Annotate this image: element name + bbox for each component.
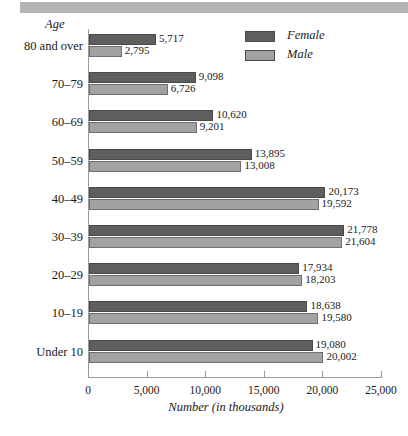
bar-female [89,340,313,351]
bar-group: 10–1918,63819,580 [0,299,408,329]
x-axis-tick [322,371,323,378]
legend-swatch-male [245,50,275,61]
bar-female [89,110,213,121]
x-axis-tick [147,371,148,378]
bar-value-label: 13,008 [241,159,274,171]
x-axis-title-text: Number (in thousands) [168,400,283,414]
bar-value-label: 10,620 [213,108,246,120]
bar-group: 50–5913,89513,008 [0,147,408,177]
bar-group: 40–4920,17319,592 [0,185,408,215]
chart-legend: Female Male [245,28,385,66]
bar-male [89,84,168,95]
legend-item-female: Female [245,28,385,47]
bar-female [89,301,307,312]
legend-label-male: Male [287,47,313,62]
bar-female [89,149,252,160]
category-label: 60–69 [52,115,83,130]
bar-male [89,237,342,248]
x-axis-tick-label: 20,000 [292,384,352,396]
category-label: 80 and over [24,39,83,54]
x-axis-tick-label: 10,000 [175,384,235,396]
category-label: 10–19 [52,306,83,321]
x-axis-line [88,377,382,378]
bar-value-label: 21,778 [344,223,377,235]
bar-male [89,199,319,210]
bar-male [89,46,122,57]
bar-male [89,352,323,363]
bar-group: 70–799,0986,726 [0,70,408,100]
x-axis-tick [205,371,206,378]
bar-female [89,187,325,198]
bar-value-label: 13,895 [252,147,285,159]
bar-value-label: 19,592 [319,197,352,209]
bar-male [89,161,241,172]
bar-male [89,122,197,133]
y-axis-title: Age [45,17,64,32]
bar-group: 20–2917,93418,203 [0,261,408,291]
bar-value-label: 20,173 [325,185,358,197]
x-axis-title: Number (in thousands) [0,400,408,415]
age-population-bar-chart: Age 80 and over5,7172,79570–799,0986,726… [0,0,408,436]
bar-value-label: 19,080 [313,338,346,350]
bar-group: 60–6910,6209,201 [0,108,408,138]
x-axis-tick-label: 25,000 [351,384,408,396]
bar-value-label: 21,604 [342,235,375,247]
bar-value-label: 9,201 [197,120,225,132]
x-axis-tick [88,371,89,378]
bar-group: Under 1019,08020,002 [0,338,408,368]
legend-swatch-female [245,31,275,42]
bar-male [89,313,318,324]
bar-value-label: 18,638 [307,299,340,311]
category-label: 20–29 [52,268,83,283]
bar-value-label: 19,580 [318,311,351,323]
bar-female [89,263,299,274]
x-axis-tick-label: 15,000 [234,384,294,396]
bar-group: 30–3921,77821,604 [0,223,408,253]
bar-value-label: 9,098 [196,70,224,82]
x-axis-tick [264,371,265,378]
bar-value-label: 18,203 [302,273,335,285]
category-label: 40–49 [52,192,83,207]
bar-value-label: 2,795 [122,44,150,56]
category-label: 30–39 [52,230,83,245]
category-label: Under 10 [36,345,83,360]
legend-label-female: Female [287,28,324,43]
x-axis-tick-label: 5,000 [117,384,177,396]
bar-value-label: 5,717 [156,32,184,44]
bar-value-label: 17,934 [299,261,332,273]
bar-male [89,275,302,286]
category-label: 70–79 [52,77,83,92]
category-label: 50–59 [52,154,83,169]
x-axis-tick-label: 0 [58,384,118,396]
bar-female [89,225,344,236]
bar-value-label: 20,002 [323,350,356,362]
bar-value-label: 6,726 [168,82,196,94]
legend-item-male: Male [245,47,385,66]
x-axis-tick [381,371,382,378]
